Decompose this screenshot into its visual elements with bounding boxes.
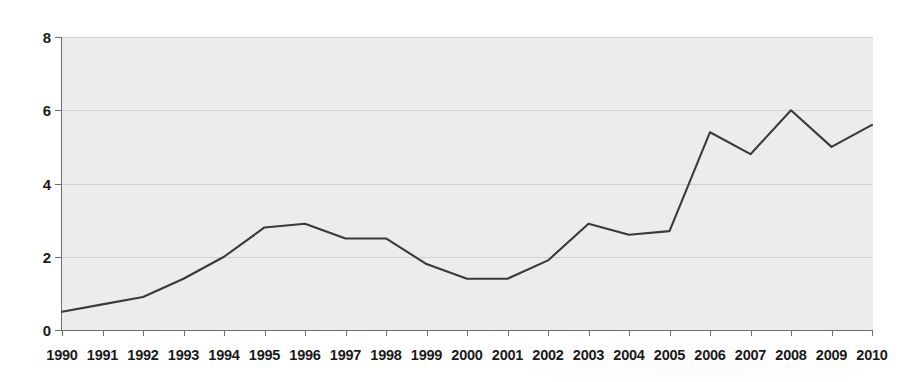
data-series-line <box>62 110 872 311</box>
line-chart: 8 6 4 2 0 199019911992199319941995199619… <box>0 0 913 382</box>
series-layer <box>0 0 913 382</box>
